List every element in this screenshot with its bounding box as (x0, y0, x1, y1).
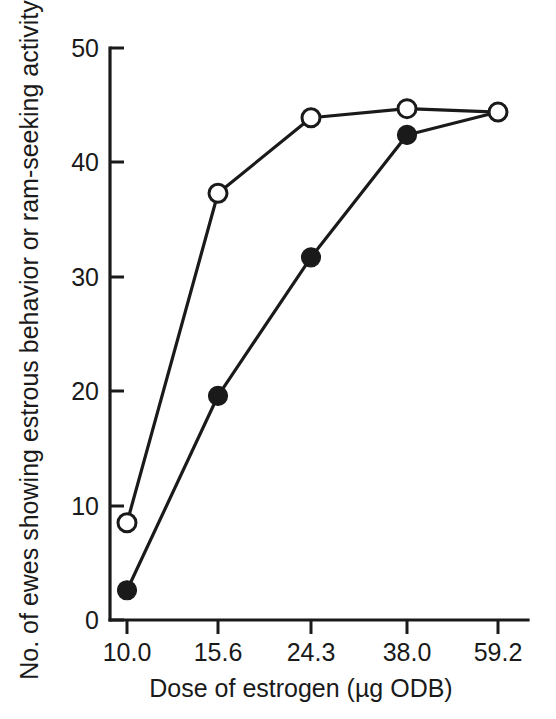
x-tick-label-38-0: 38.0 (383, 638, 432, 666)
data-point-filled-circle-series-10.0 (118, 581, 137, 600)
data-point-filled-circle-series-24.3 (302, 248, 321, 267)
y-tick-label-30: 30 (71, 263, 99, 291)
y-tick-label-20: 20 (71, 377, 99, 405)
x-axis-title: Dose of estrogen (µg ODB) (149, 674, 452, 702)
data-point-filled-circle-series-38.0 (398, 125, 417, 144)
data-point-open-circle-series-15.6 (209, 184, 227, 202)
y-tick-label-40: 40 (71, 148, 99, 176)
y-tick-label-0: 0 (85, 606, 99, 634)
series-line-filled (127, 109, 498, 523)
line-chart: 50 40 30 20 10 0 10.0 15.6 24.3 38.0 59.… (0, 0, 556, 719)
x-tick-label-15-6: 15.6 (194, 638, 243, 666)
y-axis-ticks (110, 48, 124, 620)
y-tick-label-10: 10 (71, 492, 99, 520)
x-axis-ticks (127, 620, 498, 634)
data-point-open-circle-series-59.2 (489, 103, 507, 121)
x-tick-label-24-3: 24.3 (287, 638, 336, 666)
series-markers-filled (118, 100, 507, 532)
data-point-open-circle-series-38.0 (398, 100, 416, 118)
y-axis-title: No. of ewes showing estrous behavior or … (15, 0, 43, 680)
data-point-open-circle-series-10.0 (118, 514, 136, 532)
x-tick-label-59-2: 59.2 (474, 638, 523, 666)
data-point-filled-circle-series-15.6 (209, 386, 228, 405)
figure-container: 50 40 30 20 10 0 10.0 15.6 24.3 38.0 59.… (0, 0, 556, 719)
y-tick-label-50: 50 (71, 34, 99, 62)
data-point-open-circle-series-24.3 (302, 109, 320, 127)
x-tick-label-10-0: 10.0 (103, 638, 152, 666)
series-line-open (127, 112, 498, 590)
